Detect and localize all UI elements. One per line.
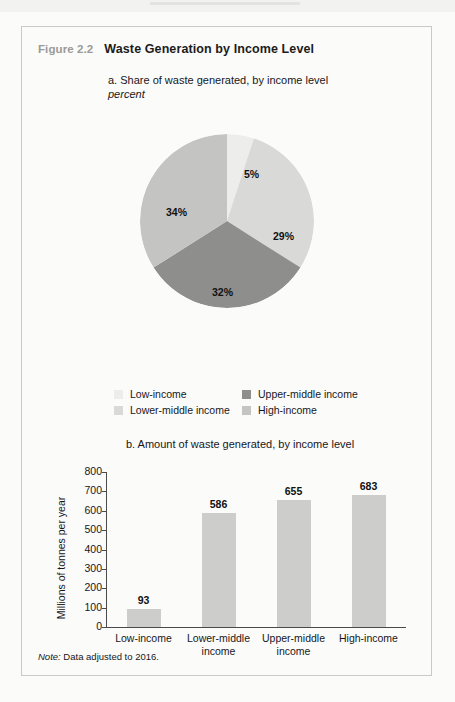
figure-note-text: Data adjusted to 2016. bbox=[61, 651, 159, 662]
bar-chart-plot-area: 0100200300400500600700800 93586655683 bbox=[106, 472, 406, 627]
pie-legend: Low-income Upper-middle income Lower-mid… bbox=[114, 386, 384, 418]
y-tick-label: 100 bbox=[62, 601, 102, 613]
legend-item-lower-middle-income: Lower-middle income bbox=[114, 404, 242, 416]
bar-cell: 683 bbox=[331, 472, 406, 627]
y-tick-label: 500 bbox=[62, 523, 102, 535]
pie-label-low-income: 5% bbox=[244, 168, 259, 180]
figure-page: Figure 2.2 Waste Generation by Income Le… bbox=[0, 0, 455, 702]
bar-series: 93586655683 bbox=[106, 472, 406, 627]
legend-item-high-income: High-income bbox=[242, 404, 384, 416]
panel-a-heading: a. Share of waste generated, by income l… bbox=[108, 73, 408, 101]
y-tick-label: 0 bbox=[62, 620, 102, 632]
bar-lower-middle-income bbox=[202, 513, 236, 627]
bar-high-income bbox=[352, 495, 386, 627]
y-tick-label: 300 bbox=[62, 562, 102, 574]
bar-chart: Millions of tonnes per year 010020030040… bbox=[56, 464, 416, 654]
figure-container: Figure 2.2 Waste Generation by Income Le… bbox=[21, 26, 432, 676]
legend-item-upper-middle-income: Upper-middle income bbox=[242, 388, 384, 400]
pie-chart: 5% 29% 32% 34% bbox=[140, 134, 314, 308]
legend-item-low-income: Low-income bbox=[114, 388, 242, 400]
legend-label-high-income: High-income bbox=[258, 404, 317, 416]
figure-title: Waste Generation by Income Level bbox=[104, 42, 314, 56]
legend-swatch-high-income bbox=[242, 406, 251, 415]
bar-value-label: 93 bbox=[106, 594, 181, 606]
x-axis-line bbox=[106, 627, 406, 628]
figure-note: Note: Data adjusted to 2016. bbox=[38, 651, 159, 662]
bar-low-income bbox=[127, 609, 161, 627]
legend-label-lower-middle-income: Lower-middle income bbox=[130, 404, 230, 416]
panel-a-subtitle: percent bbox=[108, 87, 408, 101]
x-axis-label: High-income bbox=[331, 632, 406, 657]
figure-number: Figure 2.2 bbox=[38, 43, 93, 55]
bar-value-label: 586 bbox=[181, 498, 256, 510]
y-tick-label: 400 bbox=[62, 543, 102, 555]
y-tick-mark bbox=[102, 627, 106, 628]
bar-chart-y-axis-label: Millions of tonnes per year bbox=[54, 478, 68, 638]
bar-upper-middle-income bbox=[277, 500, 311, 627]
panel-a-title: a. Share of waste generated, by income l… bbox=[108, 73, 408, 87]
legend-swatch-upper-middle-income bbox=[242, 390, 251, 399]
x-axis-label: Upper-middle income bbox=[256, 632, 331, 657]
bar-cell: 655 bbox=[256, 472, 331, 627]
legend-label-upper-middle-income: Upper-middle income bbox=[258, 388, 358, 400]
pie-chart-svg bbox=[140, 134, 314, 308]
legend-swatch-low-income bbox=[114, 390, 123, 399]
y-tick-label: 600 bbox=[62, 504, 102, 516]
x-axis-label: Lower-middle income bbox=[181, 632, 256, 657]
legend-swatch-lower-middle-income bbox=[114, 406, 123, 415]
pie-label-upper-middle-income: 32% bbox=[212, 286, 233, 298]
legend-label-low-income: Low-income bbox=[130, 388, 187, 400]
panel-b-title: b. Amount of waste generated, by income … bbox=[126, 438, 354, 450]
bar-cell: 586 bbox=[181, 472, 256, 627]
bar-value-label: 683 bbox=[331, 480, 406, 492]
pie-label-lower-middle-income: 29% bbox=[273, 230, 294, 242]
pie-label-high-income: 34% bbox=[166, 206, 187, 218]
y-tick-label: 200 bbox=[62, 581, 102, 593]
page-top-edge bbox=[0, 0, 455, 12]
figure-header: Figure 2.2 Waste Generation by Income Le… bbox=[38, 42, 314, 56]
bar-value-label: 655 bbox=[256, 485, 331, 497]
bar-cell: 93 bbox=[106, 472, 181, 627]
y-tick-label: 700 bbox=[62, 484, 102, 496]
figure-note-label: Note: bbox=[38, 651, 61, 662]
y-tick-label: 800 bbox=[62, 465, 102, 477]
